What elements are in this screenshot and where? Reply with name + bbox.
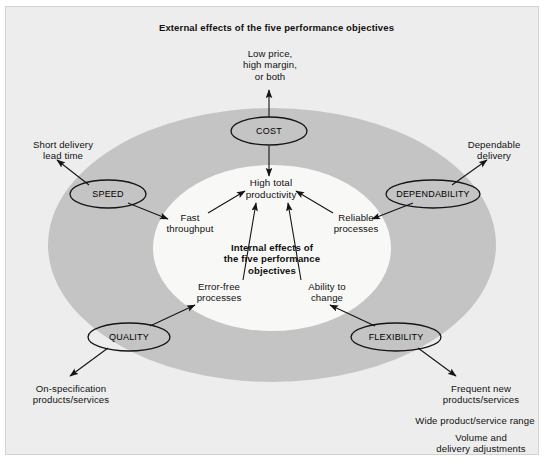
node-dependability[interactable]: DEPENDABILITY	[386, 180, 480, 208]
external-effect-quality: On-specification products/services	[2, 383, 140, 406]
node-flexibility[interactable]: FLEXIBILITY	[351, 323, 441, 351]
external-effect-flexibility-volume: Volume and delivery adjustments	[412, 432, 550, 455]
node-quality[interactable]: QUALITY	[88, 323, 170, 351]
external-effect-flexibility-range: Wide product/service range	[400, 415, 550, 426]
arrow-flexibility-external	[418, 348, 456, 376]
node-cost[interactable]: COST	[231, 117, 307, 145]
center-caption: Internal effects of the five performance…	[192, 242, 352, 276]
internal-effect-speed: Fast throughput	[150, 212, 230, 235]
node-flexibility-label: FLEXIBILITY	[369, 332, 424, 342]
node-dependability-label: DEPENDABILITY	[396, 189, 470, 199]
external-effect-flexibility: Frequent new products/services	[414, 383, 548, 406]
external-effect-speed: Short delivery lead time	[8, 139, 118, 162]
external-effect-dependability: Dependable delivery	[440, 139, 548, 162]
internal-effect-dependability: Reliable processes	[316, 212, 396, 235]
page-title: External effects of the five performance…	[0, 22, 553, 33]
diagram-canvas: External effects of the five performance…	[0, 0, 553, 471]
internal-effect-flexibility: Ability to change	[286, 281, 368, 304]
external-effect-cost: Low price, high margin, or both	[205, 48, 335, 82]
node-quality-label: QUALITY	[109, 332, 149, 342]
node-speed[interactable]: SPEED	[70, 180, 146, 208]
node-cost-label: COST	[256, 126, 282, 136]
arrow-quality-external	[70, 348, 108, 376]
hub-label: High total productivity	[212, 177, 330, 200]
internal-effect-quality: Error-free processes	[178, 281, 260, 304]
node-speed-label: SPEED	[92, 189, 124, 199]
